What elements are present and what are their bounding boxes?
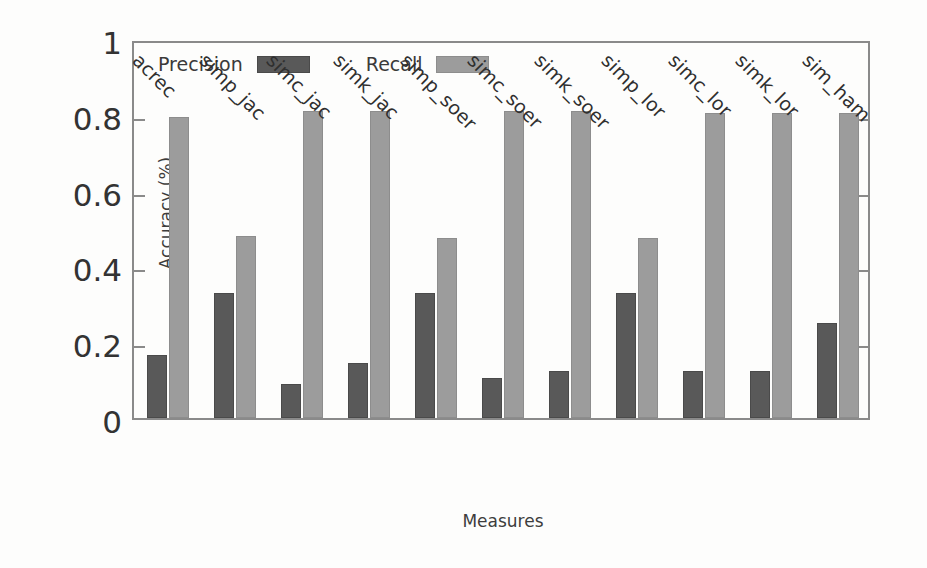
x-tick-label-simp_jac: simp_jac (195, 49, 270, 124)
bar-acrec-recall (169, 117, 189, 418)
bar-simp_lor-recall (638, 238, 658, 418)
bar-simp_jac-precision (214, 293, 234, 418)
y-tick-mark (134, 270, 145, 272)
bar-simc_soer-precision (482, 378, 502, 418)
bar-simc_soer-recall (504, 111, 524, 418)
y-tick-mark (134, 346, 145, 348)
bar-simc_lor-recall (705, 113, 725, 418)
bar-simk_lor-recall (772, 113, 792, 418)
bar-simk_jac-recall (370, 111, 390, 418)
bar-simp_jac-recall (236, 236, 256, 418)
bar-simp_lor-precision (616, 293, 636, 418)
x-axis-title: Measures (134, 511, 872, 531)
bar-simc_jac-precision (281, 384, 301, 418)
y-tick-mark (134, 195, 145, 197)
x-tick-label-simk_lor: simk_lor (732, 49, 804, 121)
x-tick-label-simk_jac: simk_jac (329, 49, 403, 123)
bar-simk_soer-precision (549, 371, 569, 418)
bar-simk_jac-precision (348, 363, 368, 418)
bar-simc_jac-recall (303, 111, 323, 418)
bar-simp_soer-recall (437, 238, 457, 418)
bar-simk_lor-precision (750, 371, 770, 418)
y-tick-label: 0.8 (73, 103, 122, 134)
y-tick-label: 1 (102, 28, 122, 59)
plot-area: Accuracy (%) 00.20.40.60.81 PrecisionRec… (132, 41, 870, 420)
x-tick-label-simc_lor: simc_lor (665, 49, 737, 121)
bar-simc_lor-precision (683, 371, 703, 418)
x-tick-label-sim_ham: sim_ham (799, 49, 876, 126)
bar-simk_soer-recall (571, 111, 591, 418)
y-tick-label: 0.6 (73, 179, 122, 210)
bar-sim_ham-precision (817, 323, 837, 418)
y-tick-label: 0 (102, 407, 122, 438)
bar-acrec-precision (147, 355, 167, 418)
x-tick-label-acrec: acrec (128, 49, 181, 102)
y-tick-mark (134, 119, 145, 121)
y-tick-label: 0.2 (73, 331, 122, 362)
x-tick-label-simc_jac: simc_jac (262, 49, 336, 123)
bar-simp_soer-precision (415, 293, 435, 418)
bar-sim_ham-recall (839, 113, 859, 418)
bar-chart-figure: Accuracy (%) 00.20.40.60.81 PrecisionRec… (0, 0, 927, 568)
y-tick-label: 0.4 (73, 255, 122, 286)
